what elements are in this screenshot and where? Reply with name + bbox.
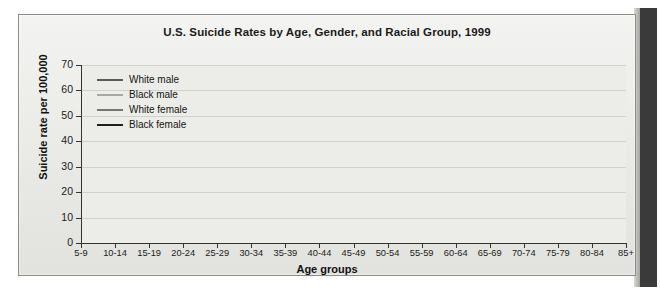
legend-swatch-icon — [97, 109, 123, 111]
x-axis-tick-label: 75-79 — [546, 248, 570, 258]
x-axis-tick-label: 60-64 — [444, 248, 468, 258]
y-axis-tick — [76, 141, 81, 142]
gridline — [81, 192, 626, 193]
legend-item-label: Black female — [129, 119, 186, 130]
legend-item: Black male — [97, 87, 227, 102]
x-axis-tick-label: 25-29 — [205, 248, 229, 258]
legend-item-label: White male — [129, 74, 179, 85]
legend-item: White female — [97, 102, 227, 117]
x-axis-tick-label: 70-74 — [512, 248, 536, 258]
x-axis-tick-label: 10-14 — [103, 248, 127, 258]
x-axis-tick-label: 35-39 — [273, 248, 297, 258]
y-axis-tick-label: 30 — [49, 160, 73, 172]
x-axis-tick-label: 55-59 — [410, 248, 434, 258]
legend-item-label: Black male — [129, 89, 178, 100]
y-axis-tick-label: 0 — [49, 236, 73, 248]
y-axis-tick-labels: 010203040506070 — [45, 65, 73, 244]
y-axis-tick-label: 40 — [49, 134, 73, 146]
x-axis-tick-label: 50-54 — [376, 248, 400, 258]
x-axis-title: Age groups — [19, 263, 635, 275]
y-axis-tick — [76, 167, 81, 168]
y-axis-tick — [76, 218, 81, 219]
gridline — [81, 65, 626, 66]
legend-item: White male — [97, 72, 227, 87]
y-axis-tick — [76, 90, 81, 91]
legend-swatch-icon — [97, 124, 123, 126]
chart-page: U.S. Suicide Rates by Age, Gender, and R… — [0, 0, 660, 291]
x-axis-tick-label: 85+ — [618, 248, 634, 258]
x-axis-tick-label: 15-19 — [137, 248, 161, 258]
page-title: U.S. Suicide Rates by Age, Gender, and R… — [19, 26, 635, 38]
y-axis-tick — [76, 192, 81, 193]
y-axis-tick-label: 70 — [49, 58, 73, 70]
y-axis-tick — [76, 116, 81, 117]
x-axis-tick-label: 80-84 — [580, 248, 604, 258]
legend-swatch-icon — [97, 94, 123, 96]
x-axis-tick-label: 20-24 — [171, 248, 195, 258]
y-axis-tick-label: 60 — [49, 83, 73, 95]
x-axis-tick-label: 30-34 — [239, 248, 263, 258]
page-edge-shadow — [640, 8, 657, 287]
x-axis-tick-label: 40-44 — [308, 248, 332, 258]
legend-item-label: White female — [129, 104, 187, 115]
gridline — [81, 218, 626, 219]
chart-panel: U.S. Suicide Rates by Age, Gender, and R… — [18, 14, 636, 276]
x-axis-tick-label: 45-49 — [342, 248, 366, 258]
y-axis-tick — [76, 65, 81, 66]
legend-item: Black female — [97, 117, 227, 132]
legend-swatch-icon — [97, 79, 123, 81]
x-axis-tick-labels: 5-910-1415-1920-2425-2930-3435-3940-4445… — [19, 248, 660, 262]
legend: White maleBlack maleWhite femaleBlack fe… — [97, 72, 227, 132]
y-axis-tick-label: 10 — [49, 211, 73, 223]
x-axis-tick-label: 65-69 — [478, 248, 502, 258]
x-axis-tick-label: 5-9 — [74, 248, 87, 258]
y-axis-tick-label: 20 — [49, 185, 73, 197]
gridline — [81, 167, 626, 168]
y-axis-tick-label: 50 — [49, 109, 73, 121]
gridline — [81, 141, 626, 142]
y-axis-line — [81, 65, 82, 244]
